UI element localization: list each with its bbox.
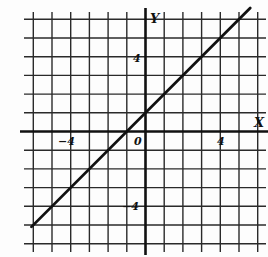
coordinate-plot: Y X 0 −4 4 4 −4 — [0, 0, 268, 257]
y-axis-label: Y — [150, 11, 161, 26]
origin-label: 0 — [134, 135, 142, 148]
y-tick-label-neg4: −4 — [122, 200, 139, 213]
x-axis-label: X — [253, 115, 265, 130]
y-tick-label-pos4: 4 — [133, 52, 141, 65]
x-tick-label-neg4: −4 — [58, 135, 75, 148]
data-line — [31, 8, 250, 227]
x-tick-label-pos4: 4 — [217, 135, 225, 148]
